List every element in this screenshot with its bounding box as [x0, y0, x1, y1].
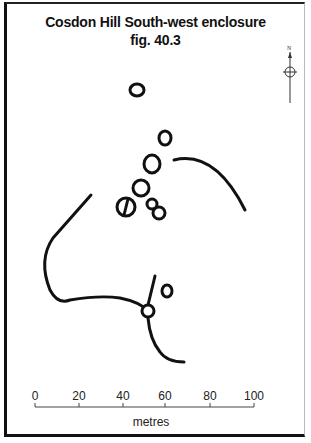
hut-circle	[133, 180, 149, 196]
north-arrow-icon	[283, 52, 297, 103]
wall-segment	[148, 318, 184, 362]
scale-tick-label: 20	[72, 389, 85, 403]
scale-tick-label: 100	[244, 389, 264, 403]
site-plan	[0, 0, 311, 443]
wall-segment	[148, 276, 155, 305]
scale-tick-label: 80	[203, 389, 216, 403]
hut-circle	[130, 84, 144, 96]
scale-tick-label: 40	[116, 389, 129, 403]
hut-circle	[144, 155, 160, 173]
wall-segment	[174, 159, 245, 210]
scale-tick-label: 60	[158, 389, 171, 403]
hut-circle	[142, 305, 154, 317]
hut-circle	[159, 131, 171, 145]
hut-circles	[117, 84, 172, 317]
scale-unit-label: metres	[133, 415, 170, 429]
scale-tick-label: 0	[32, 389, 39, 403]
hut-circle	[162, 285, 172, 297]
scale-bar	[35, 403, 254, 407]
hut-circle	[153, 207, 165, 219]
